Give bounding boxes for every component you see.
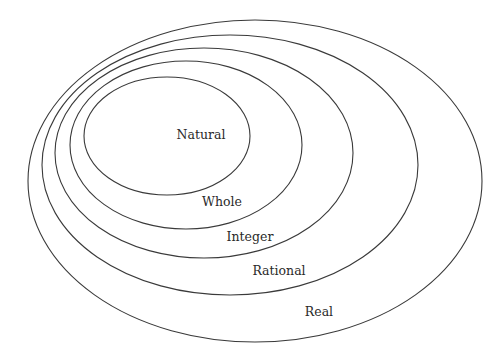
set-natural: Natural xyxy=(84,77,250,195)
number-sets-diagram: Real Rational Integer Whole Natural xyxy=(0,0,501,362)
integer-label: Integer xyxy=(227,229,274,244)
whole-label: Whole xyxy=(202,194,242,209)
integer-ellipse xyxy=(55,48,353,258)
whole-ellipse xyxy=(70,61,302,229)
rational-label: Rational xyxy=(252,263,305,278)
natural-label: Natural xyxy=(177,127,226,142)
real-label: Real xyxy=(305,304,333,319)
set-integer: Integer xyxy=(55,48,353,258)
set-whole: Whole xyxy=(70,61,302,229)
